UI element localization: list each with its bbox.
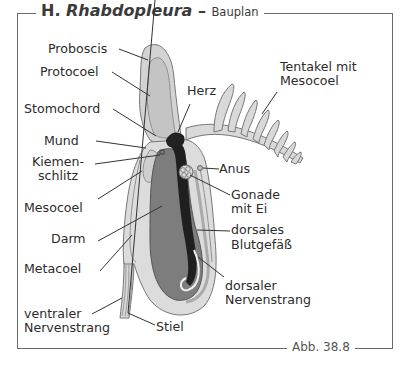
- label-mesocoel: Mesocoel: [24, 201, 83, 215]
- label-protocoel: Protocoel: [40, 65, 99, 79]
- gonad: [179, 165, 193, 179]
- label-tentakel-1: Tentakel mit: [280, 60, 357, 74]
- label-dorsaler-2: Nervenstrang: [225, 293, 311, 307]
- label-anus: Anus: [219, 162, 250, 176]
- label-proboscis: Proboscis: [48, 42, 107, 56]
- label-gonade-2: mit Ei: [231, 202, 267, 216]
- label-blutgefaess-2: Blutgefäß: [231, 238, 292, 252]
- label-kiemenschlitz-1: Kiemen-: [32, 155, 84, 169]
- label-stiel: Stiel: [156, 320, 184, 334]
- label-darm: Darm: [51, 232, 86, 246]
- label-ventraler-1: ventraler: [24, 307, 81, 321]
- trunk: [123, 133, 216, 316]
- label-kiemenschlitz-2: schlitz: [38, 169, 78, 183]
- figure-number: Abb. 38.8: [287, 340, 355, 354]
- label-herz: Herz: [187, 84, 216, 98]
- label-dorsaler-1: dorsaler: [225, 279, 277, 293]
- label-tentakel-2: Mesocoel: [280, 74, 339, 88]
- label-blutgefaess-1: dorsales: [231, 223, 284, 237]
- label-stomochord: Stomochord: [24, 102, 100, 116]
- label-gonade-1: Gonade: [231, 188, 280, 202]
- label-mund: Mund: [44, 134, 79, 148]
- label-ventraler-2: Nervenstrang: [24, 321, 110, 335]
- label-metacoel: Metacoel: [24, 262, 81, 276]
